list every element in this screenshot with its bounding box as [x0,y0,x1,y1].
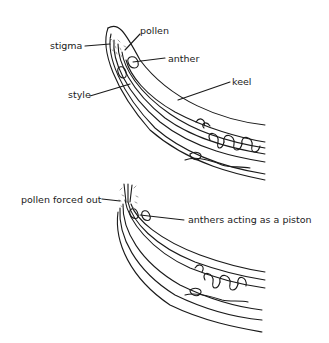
label-stigma: stigma [50,41,82,51]
label-anthers-piston: anthers acting as a piston [188,215,312,225]
label-style: style [68,90,91,100]
diagram-canvas [0,0,329,343]
top-keel-flower [106,26,265,180]
label-pollen-forced-out: pollen forced out [21,195,102,205]
label-keel: keel [232,77,252,87]
top-leader-lines [85,34,230,100]
label-anther: anther [168,54,199,64]
bottom-keel-flower [117,184,265,332]
label-pollen: pollen [140,26,169,36]
bottom-leader-lines [102,199,184,220]
